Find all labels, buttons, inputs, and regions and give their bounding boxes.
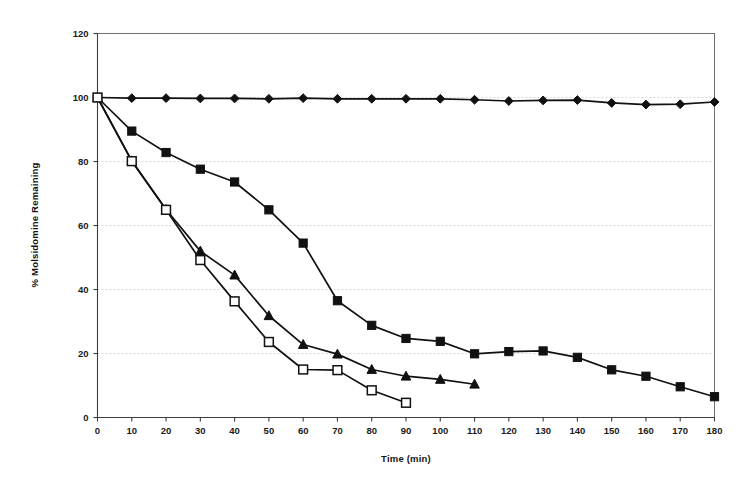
- open-square-marker: [264, 338, 273, 347]
- y-tick-label: 20: [78, 348, 89, 359]
- filled-square-marker: [299, 239, 307, 247]
- y-tick-label: 100: [73, 92, 89, 103]
- filled-square-marker: [676, 383, 684, 391]
- x-tick-label: 80: [366, 425, 377, 436]
- filled-square-marker: [505, 347, 513, 355]
- filled-square-marker: [265, 206, 273, 214]
- y-tick-label: 60: [78, 220, 89, 231]
- x-tick-label: 110: [467, 425, 482, 436]
- x-tick-label: 150: [604, 425, 620, 436]
- chart-background: [0, 0, 749, 486]
- x-axis-title: Time (min): [381, 453, 431, 464]
- filled-square-marker: [196, 165, 204, 173]
- x-tick-label: 30: [195, 425, 206, 436]
- open-square-marker: [162, 205, 171, 214]
- x-tick-label: 100: [432, 425, 448, 436]
- open-square-marker: [333, 366, 342, 375]
- line-chart: 020406080100120 010203040506070809010011…: [0, 0, 749, 486]
- y-tick-label: 120: [73, 28, 89, 39]
- x-tick-label: 20: [161, 425, 172, 436]
- y-tick-label: 40: [78, 284, 89, 295]
- open-square-marker: [196, 256, 205, 265]
- filled-square-marker: [470, 350, 478, 358]
- x-tick-label: 50: [264, 425, 275, 436]
- open-square-marker: [230, 297, 239, 306]
- filled-square-marker: [368, 321, 376, 329]
- filled-square-marker: [573, 353, 581, 361]
- filled-square-marker: [642, 372, 650, 380]
- open-square-marker: [93, 93, 102, 102]
- x-tick-label: 10: [126, 425, 137, 436]
- open-square-marker: [367, 386, 376, 395]
- filled-square-marker: [710, 393, 718, 401]
- x-tick-label: 140: [569, 425, 585, 436]
- x-tick-label: 70: [332, 425, 343, 436]
- filled-square-marker: [608, 366, 616, 374]
- x-tick-label: 170: [672, 425, 688, 436]
- filled-square-marker: [436, 337, 444, 345]
- x-tick-label: 160: [638, 425, 654, 436]
- x-tick-label: 60: [298, 425, 309, 436]
- filled-square-marker: [231, 178, 239, 186]
- filled-square-marker: [333, 297, 341, 305]
- x-tick-label: 90: [401, 425, 412, 436]
- x-tick-label: 180: [707, 425, 723, 436]
- y-axis-title: % Molsidomine Remaining: [29, 163, 40, 288]
- filled-square-marker: [128, 127, 136, 135]
- filled-square-marker: [162, 148, 170, 156]
- y-tick-label: 80: [78, 156, 89, 167]
- x-tick-label: 40: [229, 425, 240, 436]
- x-tick-label: 120: [501, 425, 517, 436]
- chart-container: 020406080100120 010203040506070809010011…: [0, 0, 749, 486]
- filled-square-marker: [539, 347, 547, 355]
- open-square-marker: [299, 365, 308, 374]
- open-square-marker: [402, 398, 411, 407]
- x-tick-label: 130: [535, 425, 551, 436]
- filled-square-marker: [402, 334, 410, 342]
- y-tick-label: 0: [83, 412, 88, 423]
- x-tick-label: 0: [95, 425, 100, 436]
- open-square-marker: [127, 157, 136, 166]
